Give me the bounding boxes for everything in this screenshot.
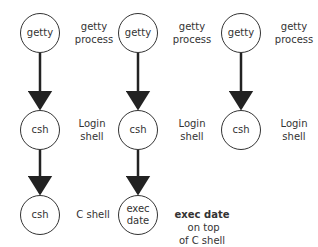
node-text: csh: [129, 124, 146, 136]
label-login-shell: Loginshell: [172, 117, 212, 143]
label-bold: exec date: [175, 209, 230, 220]
node-getty: getty: [118, 13, 158, 53]
label-getty-process: gettyprocess: [72, 20, 116, 46]
node-text-line: date: [127, 215, 150, 226]
label-getty-process: gettyprocess: [170, 20, 214, 46]
node-text-line: exec: [126, 203, 149, 214]
node-text: getty: [228, 27, 254, 39]
label-line: Login: [79, 118, 106, 129]
label-line: shell: [282, 131, 305, 142]
label-line: process: [173, 34, 211, 45]
label-line: Login: [281, 118, 308, 129]
label-line: getty: [81, 21, 107, 32]
label-line: of C shell: [179, 235, 225, 246]
label-getty-process: gettyprocess: [272, 20, 316, 46]
node-exec-date: execdate: [118, 195, 158, 235]
label-c-shell: C shell: [68, 208, 118, 221]
label-login-shell: Loginshell: [274, 117, 314, 143]
node-csh-cshell: csh: [20, 195, 60, 235]
label-exec-date-on-top: exec date on topof C shell: [162, 208, 242, 247]
label-login-shell: Loginshell: [72, 117, 112, 143]
node-text: execdate: [126, 203, 149, 227]
node-text: csh: [232, 124, 249, 136]
node-text: csh: [31, 209, 48, 221]
label-line: getty: [179, 21, 205, 32]
node-csh-login: csh: [118, 110, 158, 150]
node-text: getty: [27, 27, 53, 39]
label-line: process: [75, 34, 113, 45]
label-line: shell: [80, 131, 103, 142]
node-csh-login: csh: [221, 110, 261, 150]
label-line: C shell: [76, 209, 109, 220]
node-text: csh: [31, 124, 48, 136]
label-line: getty: [281, 21, 307, 32]
label-line: Login: [179, 118, 206, 129]
label-line: process: [275, 34, 313, 45]
node-text: getty: [125, 27, 151, 39]
node-getty: getty: [20, 13, 60, 53]
label-line: shell: [180, 131, 203, 142]
node-getty: getty: [221, 13, 261, 53]
label-line: on top: [184, 222, 219, 233]
node-csh-login: csh: [20, 110, 60, 150]
